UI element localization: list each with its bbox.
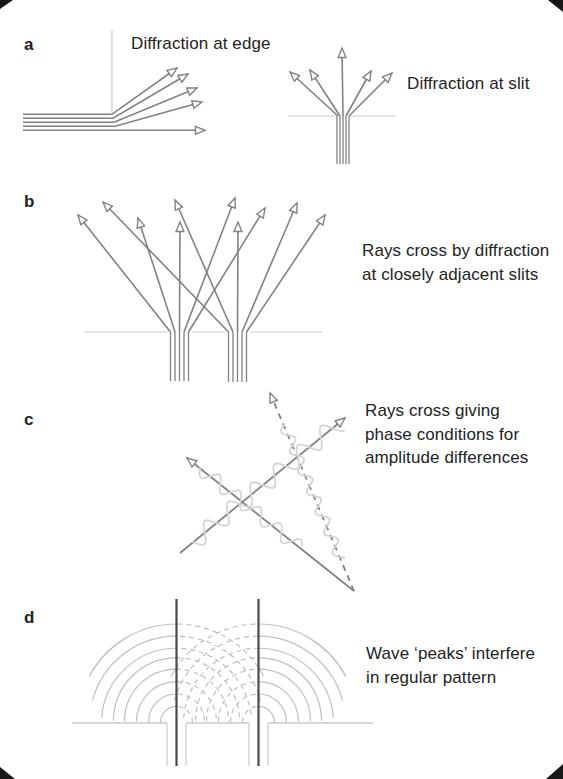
panel-a-label: a	[24, 36, 33, 53]
panel-c-caption: Rays cross giving phase conditions for a…	[365, 399, 528, 470]
panel-b-caption-line1: Rays cross by diffraction	[362, 239, 549, 263]
panel-d-graphic	[72, 599, 373, 766]
panel-d-caption: Wave ‘peaks’ interfere in regular patter…	[366, 642, 535, 689]
panel-c-label: c	[24, 411, 33, 428]
panel-b-caption: Rays cross by diffraction at closely adj…	[362, 239, 549, 286]
panel-d-caption-line2: in regular pattern	[366, 666, 535, 690]
panel-c-caption-line2: phase conditions for	[365, 423, 528, 447]
panel-c-graphic	[180, 393, 354, 591]
panel-c-caption-line1: Rays cross giving	[365, 399, 528, 423]
panel-b-caption-line2: at closely adjacent slits	[362, 263, 549, 287]
panel-d-label: d	[24, 609, 34, 626]
figure-page: a b c d Diffraction at edge Diffraction …	[0, 0, 563, 779]
panel-d-caption-line1: Wave ‘peaks’ interfere	[366, 642, 535, 666]
panel-a-caption-slit: Diffraction at slit	[407, 72, 530, 96]
panel-a-caption-edge: Diffraction at edge	[131, 32, 271, 56]
panel-b-graphic	[78, 198, 325, 382]
panel-c-caption-line3: amplitude differences	[365, 446, 528, 470]
panel-b-label: b	[24, 193, 34, 210]
